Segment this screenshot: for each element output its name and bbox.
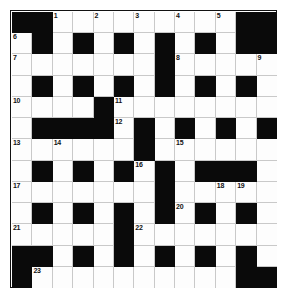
crossword-open-cell[interactable] [216, 97, 236, 118]
crossword-open-cell[interactable] [114, 54, 134, 75]
crossword-open-cell[interactable] [175, 161, 195, 182]
crossword-open-cell[interactable]: 15 [175, 139, 195, 160]
crossword-open-cell[interactable] [216, 139, 236, 160]
crossword-open-cell[interactable]: 11 [114, 97, 134, 118]
crossword-open-cell[interactable] [175, 246, 195, 267]
crossword-open-cell[interactable]: 17 [12, 182, 32, 203]
crossword-open-cell[interactable] [216, 54, 236, 75]
crossword-open-cell[interactable] [175, 33, 195, 54]
crossword-open-cell[interactable] [94, 246, 114, 267]
crossword-open-cell[interactable]: 10 [12, 97, 32, 118]
crossword-open-cell[interactable] [155, 267, 175, 288]
crossword-open-cell[interactable] [53, 203, 73, 224]
crossword-open-cell[interactable] [73, 54, 93, 75]
crossword-open-cell[interactable]: 8 [175, 54, 195, 75]
crossword-open-cell[interactable]: 16 [134, 161, 154, 182]
crossword-open-cell[interactable] [53, 76, 73, 97]
crossword-open-cell[interactable] [175, 267, 195, 288]
crossword-open-cell[interactable] [32, 97, 52, 118]
crossword-open-cell[interactable] [12, 118, 32, 139]
crossword-open-cell[interactable] [216, 224, 236, 245]
crossword-open-cell[interactable] [32, 224, 52, 245]
crossword-open-cell[interactable] [73, 12, 93, 33]
crossword-open-cell[interactable] [236, 97, 256, 118]
crossword-open-cell[interactable] [94, 161, 114, 182]
crossword-open-cell[interactable] [94, 267, 114, 288]
crossword-open-cell[interactable] [94, 224, 114, 245]
crossword-open-cell[interactable] [195, 54, 215, 75]
crossword-open-cell[interactable]: 22 [134, 224, 154, 245]
crossword-open-cell[interactable] [195, 182, 215, 203]
crossword-open-cell[interactable] [114, 12, 134, 33]
crossword-open-cell[interactable] [175, 182, 195, 203]
crossword-open-cell[interactable] [236, 139, 256, 160]
crossword-open-cell[interactable] [53, 97, 73, 118]
crossword-open-cell[interactable] [257, 224, 277, 245]
crossword-open-cell[interactable]: 4 [175, 12, 195, 33]
crossword-open-cell[interactable] [134, 203, 154, 224]
crossword-open-cell[interactable] [134, 246, 154, 267]
crossword-open-cell[interactable]: 13 [12, 139, 32, 160]
crossword-open-cell[interactable] [73, 97, 93, 118]
crossword-open-cell[interactable]: 2 [94, 12, 114, 33]
crossword-open-cell[interactable] [53, 54, 73, 75]
crossword-open-cell[interactable] [216, 246, 236, 267]
crossword-open-cell[interactable]: 23 [32, 267, 52, 288]
crossword-open-cell[interactable] [216, 76, 236, 97]
crossword-open-cell[interactable] [155, 139, 175, 160]
crossword-open-cell[interactable] [12, 203, 32, 224]
crossword-open-cell[interactable]: 6 [12, 33, 32, 54]
crossword-open-cell[interactable] [195, 139, 215, 160]
crossword-open-cell[interactable]: 7 [12, 54, 32, 75]
crossword-open-cell[interactable] [195, 12, 215, 33]
crossword-open-cell[interactable] [12, 76, 32, 97]
crossword-open-cell[interactable] [134, 267, 154, 288]
crossword-open-cell[interactable] [175, 224, 195, 245]
crossword-open-cell[interactable] [94, 139, 114, 160]
crossword-open-cell[interactable] [53, 33, 73, 54]
crossword-open-cell[interactable] [134, 182, 154, 203]
crossword-open-cell[interactable] [94, 76, 114, 97]
crossword-open-cell[interactable] [32, 182, 52, 203]
crossword-open-cell[interactable] [236, 118, 256, 139]
crossword-open-cell[interactable] [94, 33, 114, 54]
crossword-open-cell[interactable] [114, 267, 134, 288]
crossword-open-cell[interactable] [94, 203, 114, 224]
crossword-open-cell[interactable] [257, 97, 277, 118]
crossword-open-cell[interactable] [257, 203, 277, 224]
crossword-open-cell[interactable] [257, 139, 277, 160]
crossword-open-cell[interactable]: 1 [53, 12, 73, 33]
crossword-open-cell[interactable] [94, 182, 114, 203]
crossword-open-cell[interactable] [236, 224, 256, 245]
crossword-open-cell[interactable] [175, 97, 195, 118]
crossword-open-cell[interactable]: 20 [175, 203, 195, 224]
crossword-open-cell[interactable] [155, 12, 175, 33]
crossword-open-cell[interactable] [73, 224, 93, 245]
crossword-open-cell[interactable] [195, 224, 215, 245]
crossword-open-cell[interactable] [53, 224, 73, 245]
crossword-open-cell[interactable] [114, 182, 134, 203]
crossword-open-cell[interactable] [12, 161, 32, 182]
crossword-open-cell[interactable]: 12 [114, 118, 134, 139]
crossword-open-cell[interactable] [94, 54, 114, 75]
crossword-open-cell[interactable] [236, 54, 256, 75]
crossword-open-cell[interactable] [155, 224, 175, 245]
crossword-open-cell[interactable] [134, 97, 154, 118]
crossword-open-cell[interactable] [32, 139, 52, 160]
crossword-open-cell[interactable] [216, 267, 236, 288]
crossword-open-cell[interactable] [257, 161, 277, 182]
crossword-open-cell[interactable] [114, 139, 134, 160]
crossword-open-cell[interactable]: 14 [53, 139, 73, 160]
crossword-open-cell[interactable] [73, 267, 93, 288]
crossword-open-cell[interactable] [53, 246, 73, 267]
crossword-open-cell[interactable] [175, 76, 195, 97]
crossword-open-cell[interactable]: 3 [134, 12, 154, 33]
crossword-open-cell[interactable]: 9 [257, 54, 277, 75]
crossword-open-cell[interactable]: 18 [216, 182, 236, 203]
crossword-open-cell[interactable] [53, 161, 73, 182]
crossword-open-cell[interactable] [216, 33, 236, 54]
crossword-open-cell[interactable]: 5 [216, 12, 236, 33]
crossword-grid[interactable]: 1234567891011121314151617181920212223 [12, 12, 277, 288]
crossword-open-cell[interactable] [216, 203, 236, 224]
crossword-open-cell[interactable] [134, 54, 154, 75]
